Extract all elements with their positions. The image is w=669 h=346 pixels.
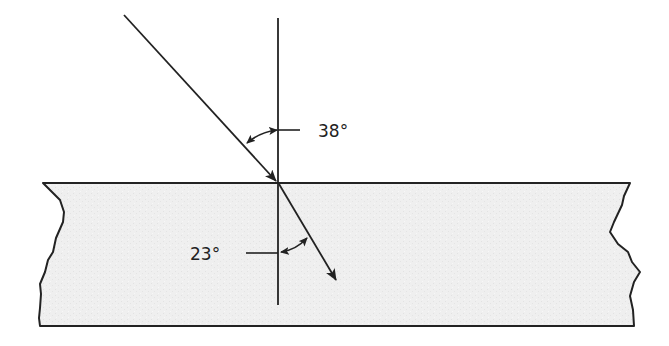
refracted-angle-label: 23°: [190, 244, 220, 264]
incident-angle-arc: [247, 130, 277, 143]
medium-slab: [39, 183, 640, 326]
refraction-diagram: 38° 23°: [0, 0, 669, 346]
incident-angle-label: 38°: [318, 121, 348, 141]
incident-ray: [124, 15, 276, 181]
